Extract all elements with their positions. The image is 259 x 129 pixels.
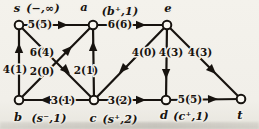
- edge-label-d-t: 5(5): [178, 93, 203, 105]
- flow-network-diagram: 4(1)5(5)6(6)6(4)2(0)2(1)4(0)4(3)4(3)3(1)…: [0, 0, 259, 129]
- edge-label-e-t: 4(3): [188, 46, 213, 58]
- edge-line-e-t: [167, 25, 241, 99]
- edge-line-c-a: [93, 25, 94, 100]
- flow-network-figure: 4(1)5(5)6(6)6(4)2(0)2(1)4(0)4(3)4(3)3(1)…: [0, 0, 259, 129]
- node-letter-t: t: [237, 108, 243, 122]
- node-circle-t: [237, 95, 246, 104]
- node-tag-d: (c⁺,1): [173, 110, 209, 123]
- edge-arrow-d-t: [208, 95, 218, 103]
- edge-label-c-b: 3(1): [51, 94, 76, 106]
- node-tag-b: (s⁻,1): [31, 112, 66, 125]
- node-letter-a: a: [80, 0, 87, 14]
- edge-label-a-e: 6(6): [108, 18, 133, 30]
- edge-arrow-a-e: [136, 21, 146, 29]
- node-letter-d: d: [160, 108, 168, 122]
- node-letter-c: c: [89, 111, 96, 125]
- node-tag-c: (s⁺,2): [102, 113, 137, 126]
- edge-label-c-a: 2(1): [74, 64, 99, 76]
- edge-arrow-c-d: [136, 96, 146, 104]
- node-circle-d: [162, 96, 171, 105]
- node-circle-a: [89, 21, 98, 30]
- edge-label-c-d: 3(2): [108, 94, 133, 106]
- node-letter-b: b: [14, 110, 22, 124]
- node-circle-c: [90, 96, 99, 105]
- edge-arrow-c-b: [40, 96, 50, 104]
- edge-label-b-a: 2(0): [30, 65, 55, 77]
- edge-arrow-b-s: [15, 43, 23, 53]
- node-circle-e: [163, 21, 172, 30]
- edge-label-s-a: 5(5): [28, 18, 53, 30]
- edge-label-b-s: 4(1): [3, 63, 28, 75]
- edge-arrow-s-a: [58, 21, 68, 29]
- edge-label-e-c: 4(0): [132, 46, 157, 58]
- node-letter-s: s: [14, 1, 21, 15]
- edge-line-e-d: [166, 25, 167, 100]
- edge-label-e-d: 4(3): [159, 46, 184, 58]
- node-circle-s: [15, 21, 24, 30]
- node-tag-s: (−,∞): [26, 2, 60, 15]
- edge-arrow-e-d: [162, 69, 170, 79]
- edge-line-e-c: [94, 25, 167, 100]
- edge-label-s-c: 6(4): [30, 46, 55, 58]
- edge-arrow-c-a: [89, 41, 97, 51]
- node-letter-e: e: [164, 1, 171, 15]
- node-circle-b: [15, 96, 24, 105]
- node-tag-a: (b⁺,1): [102, 5, 139, 18]
